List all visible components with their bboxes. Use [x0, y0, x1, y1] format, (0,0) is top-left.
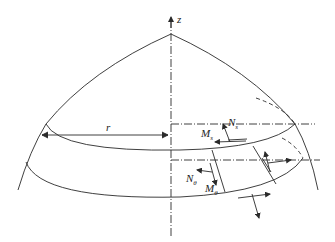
shell-profile-left	[18, 34, 171, 190]
Ns-label: Ns	[228, 117, 238, 131]
Mtheta-label: Mθ	[205, 183, 218, 197]
element-edge-right	[253, 146, 276, 184]
radius-arrow-left	[42, 132, 48, 138]
Ntheta-arrow	[197, 170, 212, 172]
shell-diagram: z r Ns Ms Nθ Mθ	[0, 0, 335, 242]
lower-parallel-circle	[26, 158, 303, 197]
Mtheta-main: M	[205, 182, 214, 194]
Ntheta-sub: θ	[193, 179, 196, 187]
radius-arrow-right	[162, 132, 168, 138]
Ms-arrow	[215, 141, 246, 142]
bottom-edge-arrow-right	[238, 194, 270, 198]
hidden-line-upper	[256, 98, 295, 124]
Ntheta-label: Nθ	[186, 173, 197, 187]
upper-parallel-circle	[46, 124, 295, 150]
radius-label: r	[106, 122, 110, 133]
bottom-edge-arrow-down	[252, 194, 259, 218]
Mtheta-sub: θ	[214, 189, 217, 197]
Ms-label: Ms	[201, 128, 213, 142]
Ms-sub: s	[210, 134, 213, 142]
Ms-main: M	[201, 127, 210, 139]
Ms-tail	[228, 139, 247, 140]
z-axis-label: z	[177, 14, 181, 25]
hidden-line-lower	[282, 138, 303, 158]
Ns-sub: s	[235, 123, 238, 131]
shell-drawing	[0, 0, 335, 242]
